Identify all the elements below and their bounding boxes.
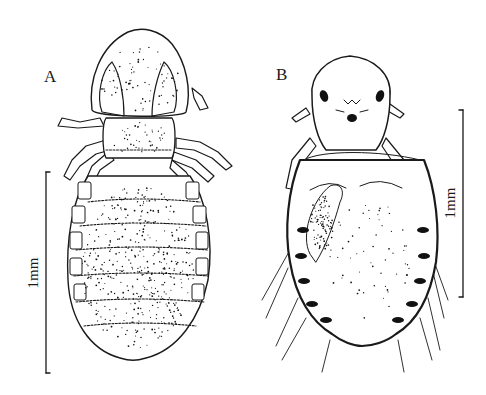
stipple-dot <box>139 301 140 302</box>
stipple-dot <box>189 252 190 253</box>
stipple-dot <box>152 210 154 212</box>
stipple-dot <box>162 86 163 87</box>
stipple-dot <box>138 189 140 191</box>
stipple-dot <box>385 286 386 287</box>
stipple-dot <box>159 249 160 250</box>
stipple-dot <box>124 208 125 209</box>
stipple-dot <box>181 239 183 241</box>
stipple-dot <box>130 303 131 304</box>
stipple-dot <box>159 301 160 302</box>
stipple-dot <box>167 73 168 74</box>
stipple-dot <box>327 212 328 213</box>
stipple-dot <box>117 239 118 240</box>
stipple-dot <box>173 311 175 313</box>
stipple-dot <box>161 74 162 75</box>
stipple-dot <box>135 197 136 198</box>
stipple-dot <box>131 69 132 70</box>
stipple-dot <box>368 210 369 211</box>
stipple-dot <box>314 243 316 245</box>
stipple-dot <box>82 263 83 264</box>
stipple-dot <box>379 208 381 210</box>
stipple-dot <box>322 225 324 227</box>
stipple-dot <box>115 308 117 310</box>
stipple-dot <box>157 337 158 338</box>
stipple-dot <box>167 200 168 201</box>
stipple-dot <box>158 247 160 249</box>
stipple-dot <box>133 71 134 72</box>
stipple-dot <box>150 317 151 318</box>
stipple-dot <box>120 207 122 209</box>
abdomen-a <box>68 176 210 360</box>
stipple-dot <box>104 205 105 206</box>
stipple-dot <box>104 91 106 93</box>
stipple-dot <box>350 258 351 259</box>
stipple-dot <box>140 266 141 267</box>
stipple-dot <box>340 225 341 226</box>
stipple-dot <box>342 275 344 277</box>
stipple-dot <box>161 95 162 96</box>
stipple-dot <box>324 218 326 220</box>
stipple-dot <box>364 317 366 319</box>
stipple-dot <box>132 287 133 288</box>
stipple-dot <box>140 347 141 348</box>
stipple-dot <box>173 317 174 318</box>
stipple-dot <box>142 147 143 148</box>
stipple-dot <box>137 201 138 202</box>
stipple-dot <box>181 287 182 288</box>
stipple-dot <box>321 202 322 203</box>
stipple-dot <box>128 345 130 347</box>
panel-label-b: B <box>276 65 287 84</box>
stipple-dot <box>137 278 139 280</box>
thorax-a <box>103 118 175 158</box>
stipple-dot <box>119 197 120 198</box>
stipple-dot <box>136 233 138 235</box>
stipple-dot <box>114 231 115 232</box>
stipple-dot <box>172 315 174 317</box>
stipple-dot <box>95 274 96 275</box>
stipple-dot <box>342 248 344 250</box>
stipple-dot <box>120 52 121 53</box>
stipple-dot <box>162 138 163 139</box>
stipple-dot <box>171 299 172 300</box>
stipple-dot <box>155 200 156 201</box>
stipple-dot <box>138 219 140 221</box>
stipple-dot <box>128 259 129 260</box>
stipple-dot <box>138 242 139 243</box>
stipple-dot <box>161 262 162 263</box>
stipple-dot <box>148 221 150 223</box>
stipple-dot <box>96 303 97 304</box>
stipple-dot <box>142 98 144 100</box>
stipple-dot <box>121 209 122 210</box>
stipple-dot <box>147 67 148 68</box>
stipple-dot <box>158 95 160 97</box>
stipple-dot <box>136 332 137 333</box>
stipple-dot <box>187 292 188 293</box>
stipple-dot <box>331 220 333 222</box>
stipple-dot <box>188 235 189 236</box>
stipple-dot <box>154 280 155 281</box>
stipple-dot <box>168 245 170 247</box>
stipple-dot <box>141 270 142 271</box>
stipple-dot <box>100 289 101 290</box>
stipple-dot <box>314 217 315 218</box>
stipple-dot <box>156 147 158 149</box>
stipple-dot <box>319 199 320 200</box>
stipple-dot <box>134 125 136 127</box>
stipple-dot <box>153 222 155 224</box>
stipple-dot <box>145 124 146 125</box>
stipple-dot <box>119 252 120 253</box>
stipple-dot <box>158 327 159 328</box>
stipple-dot <box>322 196 324 198</box>
stipple-dot <box>179 227 180 228</box>
stipple-dot <box>179 240 180 241</box>
stipple-dot <box>140 296 142 298</box>
stipple-dot <box>114 293 115 294</box>
stipple-dot <box>317 242 319 244</box>
stipple-dot <box>323 240 325 242</box>
stipple-dot <box>317 219 319 221</box>
stipple-dot <box>164 65 165 66</box>
stipple-dot <box>317 221 319 223</box>
stipple-dot <box>174 240 175 241</box>
stipple-dot <box>112 264 114 266</box>
stipple-dot <box>109 218 111 220</box>
